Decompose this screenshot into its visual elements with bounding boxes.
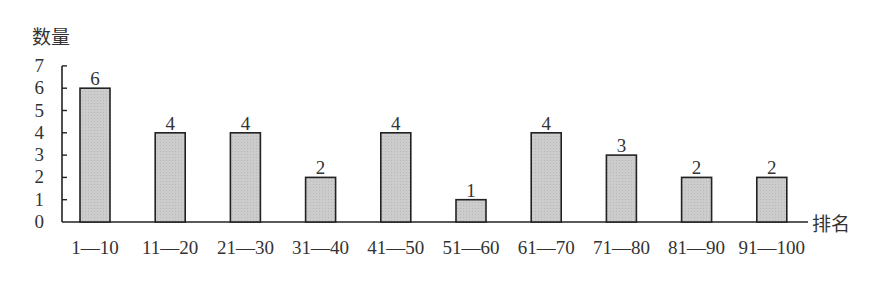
y-tick-label: 6: [35, 77, 45, 98]
x-tick-label: 61—70: [518, 237, 575, 258]
x-tick-label: 11—20: [142, 237, 198, 258]
bar-value-label: 4: [241, 113, 251, 134]
y-tick-label: 1: [35, 189, 45, 210]
x-tick-label: 21—30: [217, 237, 274, 258]
bar-value-label: 2: [767, 157, 777, 178]
y-tick-label: 2: [35, 166, 45, 187]
bar: [155, 133, 185, 222]
bar: [230, 133, 260, 222]
x-tick-label: 31—40: [292, 237, 349, 258]
y-tick-label: 4: [35, 122, 45, 143]
bar: [606, 155, 636, 222]
y-tick-label: 5: [35, 100, 45, 121]
bar-value-label: 4: [165, 113, 175, 134]
bar: [682, 177, 712, 222]
bar-chart: 0123456761—10411—20421—30231—40441—50151…: [0, 0, 883, 282]
bar-value-label: 1: [466, 180, 476, 201]
bar-value-label: 6: [90, 68, 100, 89]
bar-value-label: 4: [391, 113, 401, 134]
bar: [456, 200, 486, 222]
bar-value-label: 3: [617, 135, 627, 156]
bar-value-label: 4: [541, 113, 551, 134]
bar: [80, 88, 110, 222]
x-tick-label: 41—50: [367, 237, 424, 258]
y-tick-label: 7: [35, 55, 45, 76]
x-tick-label: 71—80: [593, 237, 650, 258]
y-tick-label: 3: [35, 144, 45, 165]
bar: [306, 177, 336, 222]
bar: [757, 177, 787, 222]
x-tick-label: 1—10: [71, 237, 119, 258]
x-tick-label: 51—60: [443, 237, 500, 258]
x-tick-label: 81—90: [668, 237, 725, 258]
bar-value-label: 2: [692, 157, 702, 178]
bar-value-label: 2: [316, 157, 326, 178]
y-tick-label: 0: [35, 211, 45, 232]
bar: [381, 133, 411, 222]
x-tick-label: 91—100: [739, 237, 806, 258]
bar: [531, 133, 561, 222]
